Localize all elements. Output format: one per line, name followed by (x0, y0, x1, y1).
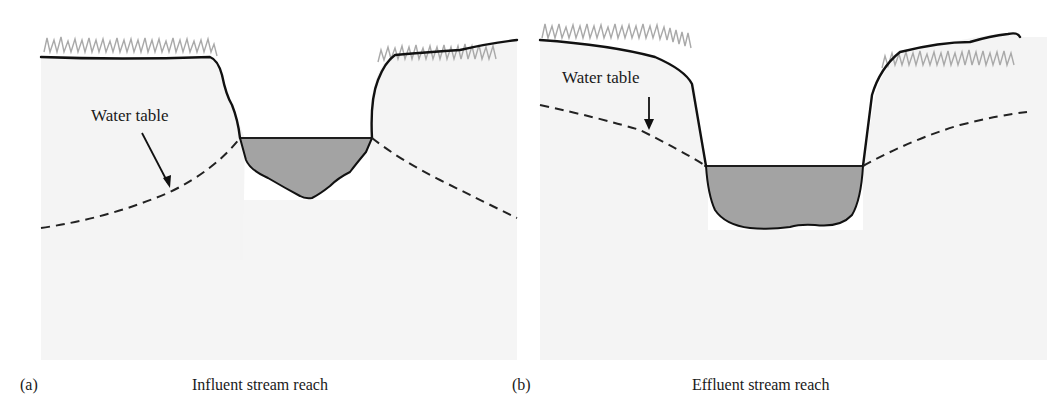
caption-influent: Influent stream reach (192, 376, 328, 394)
panel-tag-b: (b) (512, 376, 531, 394)
grass-left-icon (44, 37, 217, 56)
caption-effluent: Effluent stream reach (692, 376, 829, 394)
soil-bottom (41, 200, 517, 360)
water-table-label: Water table (91, 106, 168, 126)
stream-water (240, 138, 372, 198)
panel-influent: Water table (a) Influent stream reach (0, 0, 530, 400)
effluent-diagram (530, 0, 1057, 400)
panel-effluent: Water table (b) Effluent stream reach (530, 0, 1057, 400)
stream-water (706, 166, 863, 229)
influent-diagram (0, 0, 530, 400)
water-table-label: Water table (562, 68, 639, 88)
soil-bottom (540, 230, 1047, 360)
panel-tag-a: (a) (20, 376, 38, 394)
